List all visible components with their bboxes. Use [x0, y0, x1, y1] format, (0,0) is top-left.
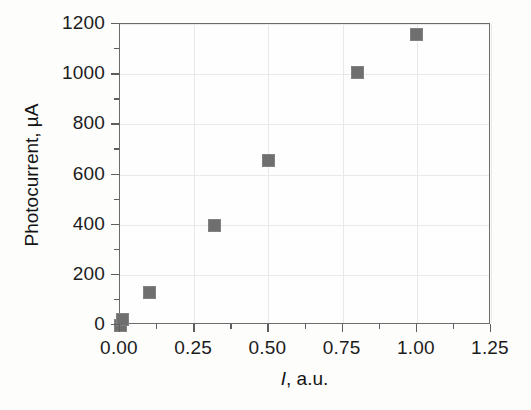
gridline-vertical — [343, 24, 344, 323]
x-tick-major — [267, 324, 268, 332]
x-tick-minor — [305, 324, 306, 329]
y-tick-minor — [114, 148, 119, 149]
gridline-horizontal — [120, 74, 489, 75]
gridline-vertical — [417, 24, 418, 323]
x-tick-major — [119, 324, 120, 332]
y-tick-label: 1200 — [33, 12, 105, 34]
y-tick-minor — [114, 98, 119, 99]
x-tick-minor — [379, 324, 380, 329]
gridline-vertical — [194, 24, 195, 323]
x-tick-label: 0.50 — [249, 337, 287, 359]
gridline-horizontal — [120, 225, 489, 226]
data-point — [143, 286, 156, 299]
x-axis-title: I, a.u. — [119, 368, 490, 390]
x-tick-minor — [230, 324, 231, 329]
x-tick-major — [193, 324, 194, 332]
plot-area — [119, 23, 490, 324]
y-tick-minor — [114, 299, 119, 300]
y-tick-minor — [114, 48, 119, 49]
x-tick-label: 1.25 — [471, 337, 509, 359]
x-tick-label: 0.75 — [323, 337, 361, 359]
y-tick-label: 600 — [33, 163, 105, 185]
data-point — [351, 66, 364, 79]
data-point — [262, 154, 275, 167]
x-tick-label: 0.00 — [100, 337, 138, 359]
y-axis-title: Photocurrent, µA — [21, 45, 43, 305]
y-tick-major — [111, 324, 119, 325]
y-tick-major — [111, 123, 119, 124]
y-tick-major — [111, 274, 119, 275]
x-tick-major — [342, 324, 343, 332]
y-tick-label: 200 — [33, 263, 105, 285]
y-tick-major — [111, 174, 119, 175]
y-tick-minor — [114, 249, 119, 250]
gridline-horizontal — [120, 124, 489, 125]
gridline-vertical — [491, 24, 492, 323]
y-tick-major — [111, 224, 119, 225]
data-point — [208, 219, 221, 232]
y-tick-label: 800 — [33, 112, 105, 134]
y-tick-label: 0 — [33, 313, 105, 335]
x-axis-title-rest: , a.u. — [286, 368, 328, 389]
y-tick-major — [111, 23, 119, 24]
data-point — [410, 28, 423, 41]
y-tick-label: 1000 — [33, 62, 105, 84]
y-tick-major — [111, 73, 119, 74]
gridline-horizontal — [120, 175, 489, 176]
x-tick-minor — [156, 324, 157, 329]
x-tick-major — [416, 324, 417, 332]
gridline-horizontal — [120, 24, 489, 25]
y-tick-label: 400 — [33, 213, 105, 235]
x-tick-minor — [453, 324, 454, 329]
x-tick-label: 1.00 — [397, 337, 435, 359]
x-tick-major — [490, 324, 491, 332]
photocurrent-scatter-figure: 0.000.250.500.751.001.25 020040060080010… — [0, 0, 531, 410]
gridline-horizontal — [120, 275, 489, 276]
y-tick-minor — [114, 199, 119, 200]
x-tick-label: 0.25 — [174, 337, 212, 359]
gridline-vertical — [268, 24, 269, 323]
